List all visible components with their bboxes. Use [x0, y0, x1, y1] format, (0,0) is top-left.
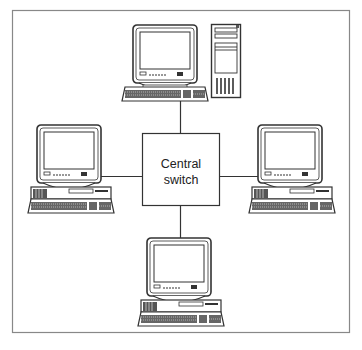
computer-bottom-icon: [138, 238, 224, 326]
network-diagram: Central switch: [0, 0, 362, 350]
computer-left-icon: [28, 125, 114, 213]
central-switch: Central switch: [143, 134, 220, 206]
tower-case-icon: [212, 25, 241, 98]
computer-right-icon: [249, 125, 335, 213]
computer-top-icon: [122, 25, 241, 102]
switch-label-line1: Central: [161, 157, 201, 171]
switch-label-line2: switch: [164, 173, 199, 187]
